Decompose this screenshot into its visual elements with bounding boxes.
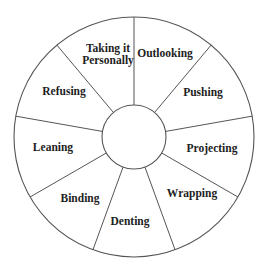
segment-label-refusing: Refusing [42,85,86,98]
segment-label-pushing: Pushing [183,86,223,99]
segment-label-denting: Denting [111,215,150,228]
spoke-divider [30,153,106,197]
spoke-divider [93,167,123,250]
segment-label-projecting: Projecting [187,142,238,155]
spoke-divider [16,116,103,131]
spoke-divider [145,167,175,250]
segment-label-binding: Binding [61,192,100,205]
wheel-diagram: OutlookingPushingProjectingWrappingDenti… [0,0,263,272]
segment-label-outlooking: Outlooking [137,47,193,60]
segment-label-taking-it-personally: Taking itPersonally [82,42,134,67]
segment-label-wrapping: Wrapping [167,187,218,200]
center-hub [102,105,166,169]
segment-label-leaning: Leaning [33,141,74,154]
spoke-divider [166,116,253,131]
